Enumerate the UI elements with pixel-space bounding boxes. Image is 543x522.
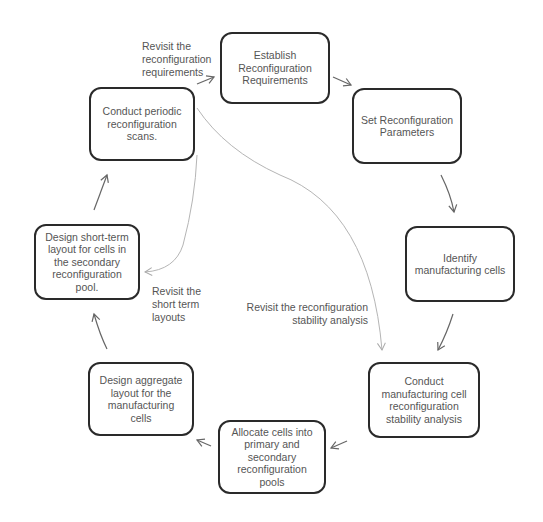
label-line: reconfiguration [142,53,211,66]
edge-label-revisit-requirements: Revisit the reconfiguration requirements [142,40,211,79]
node-label: Design aggregate layout for the manufact… [96,374,186,424]
node-label: Conduct manufacturing cell reconfigurati… [376,375,472,425]
label-line: Revisit the reconfiguration [246,301,368,314]
arrow-n1-to-n2 [333,77,351,85]
edge-label-revisit-short-term: Revisit the short term layouts [152,285,201,324]
node-label: Set Reconfiguration Parameters [360,114,454,139]
node-establish-requirements: Establish Reconfiguration Requirements [220,32,330,104]
arrow-n3-to-n4 [438,314,453,350]
arrow-n6-to-n7 [94,314,107,349]
node-label: Establish Reconfiguration Requirements [228,49,322,87]
node-periodic-scans: Conduct periodic reconfiguration scans. [89,87,195,161]
label-line: Revisit the [142,40,211,53]
node-stability-analysis: Conduct manufacturing cell reconfigurati… [368,362,480,438]
node-aggregate-layout: Design aggregate layout for the manufact… [88,362,194,436]
arrow-n5-to-n6 [197,440,211,446]
node-set-parameters: Set Reconfiguration Parameters [352,88,462,164]
node-allocate-pools: Allocate cells into primary and secondar… [218,420,326,494]
label-line: stability analysis [246,314,368,327]
node-label: Conduct periodic reconfiguration scans. [98,105,186,143]
arrow-n7-to-n8 [94,175,107,210]
node-short-term-layout: Design short-term layout for cells in th… [34,224,140,300]
node-label: Design short-term layout for cells in th… [44,231,130,294]
label-line: requirements [142,66,211,79]
arrow-revisit-short-term [145,155,197,272]
node-identify-cells: Identify manufacturing cells [405,226,515,302]
node-label: Identify manufacturing cells [413,252,507,277]
arrow-n2-to-n3 [441,175,454,212]
label-line: Revisit the [152,285,201,298]
label-line: layouts [152,311,201,324]
arrow-n4-to-n5 [331,441,347,448]
edge-label-revisit-stability: Revisit the reconfiguration stability an… [246,301,368,327]
node-label: Allocate cells into primary and secondar… [226,426,318,489]
label-line: short term [152,298,201,311]
